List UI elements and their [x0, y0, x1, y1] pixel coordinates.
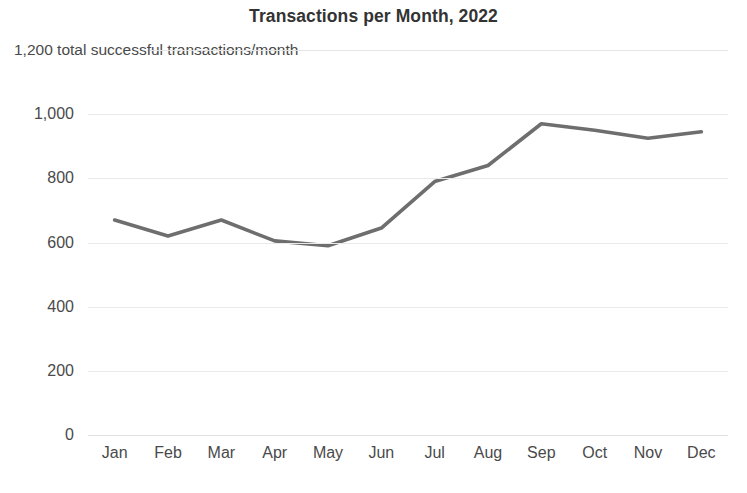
chart-title: Transactions per Month, 2022 [0, 6, 747, 27]
y-tick-label-200: 200 [4, 362, 74, 380]
x-tick-label-may: May [313, 444, 343, 462]
gridline-200 [88, 371, 728, 372]
gridline-1000 [88, 114, 728, 115]
x-tick-label-jul: Jul [424, 444, 444, 462]
plot-area [88, 50, 728, 435]
x-tick-label-jun: Jun [368, 444, 394, 462]
gridline-1200 [150, 50, 728, 51]
y-axis: 02004006008001,000 [0, 50, 74, 435]
y-tick-label-400: 400 [4, 298, 74, 316]
series-polyline [115, 124, 702, 246]
y-tick-label-600: 600 [4, 234, 74, 252]
x-tick-label-sep: Sep [527, 444, 555, 462]
x-tick-label-aug: Aug [474, 444, 502, 462]
y-tick-label-0: 0 [4, 426, 74, 444]
gridline-600 [88, 243, 728, 244]
x-tick-label-apr: Apr [262, 444, 287, 462]
x-tick-label-oct: Oct [582, 444, 607, 462]
transactions-line-chart: Transactions per Month, 2022 1,200 total… [0, 0, 747, 493]
y-tick-label-800: 800 [4, 169, 74, 187]
x-tick-label-mar: Mar [208, 444, 236, 462]
gridline-0 [88, 435, 728, 436]
gridline-400 [88, 307, 728, 308]
x-axis: JanFebMarAprMayJunJulAugSepOctNovDec [88, 444, 728, 474]
x-tick-label-dec: Dec [687, 444, 715, 462]
gridline-800 [88, 178, 728, 179]
x-tick-label-nov: Nov [634, 444, 662, 462]
x-tick-label-jan: Jan [102, 444, 128, 462]
x-tick-label-feb: Feb [154, 444, 182, 462]
y-tick-label-1000: 1,000 [4, 105, 74, 123]
